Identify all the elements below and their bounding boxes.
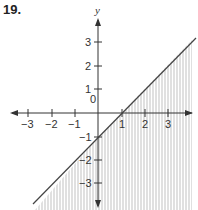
y-axis-label: y bbox=[94, 4, 100, 16]
svg-text:1: 1 bbox=[85, 83, 91, 95]
svg-text:−1: −1 bbox=[68, 118, 81, 130]
svg-text:−2: −2 bbox=[79, 154, 92, 166]
x-tick-labels: −3 −2 −1 1 2 3 bbox=[21, 118, 171, 130]
svg-text:2: 2 bbox=[85, 60, 91, 72]
x-axis-left-arrow-icon bbox=[10, 110, 18, 116]
svg-text:1: 1 bbox=[119, 118, 125, 130]
shaded-region bbox=[36, 0, 192, 210]
svg-text:−3: −3 bbox=[21, 118, 34, 130]
y-axis-up-arrow-icon bbox=[95, 18, 101, 26]
svg-text:−1: −1 bbox=[79, 131, 92, 143]
svg-text:3: 3 bbox=[85, 36, 91, 48]
svg-text:3: 3 bbox=[165, 118, 171, 130]
graph: y 0 −3 −2 −1 1 2 3 3 2 1 −1 −2 −3 bbox=[0, 0, 198, 210]
svg-text:−2: −2 bbox=[45, 118, 58, 130]
svg-text:2: 2 bbox=[142, 118, 148, 130]
svg-text:−3: −3 bbox=[79, 177, 92, 189]
